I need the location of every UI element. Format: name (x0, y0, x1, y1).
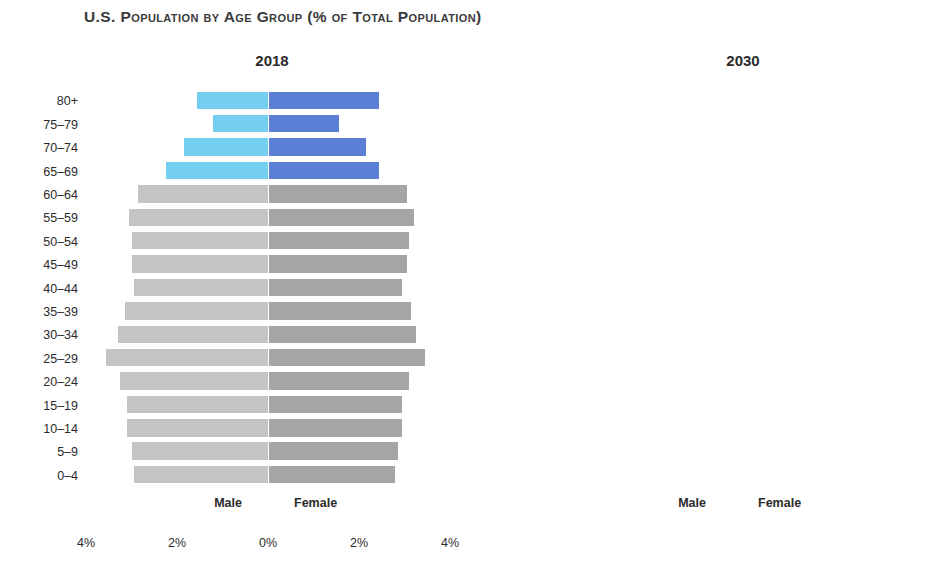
bar-male (132, 232, 269, 250)
bar-female (268, 185, 407, 203)
x-axis-tick: 0% (259, 536, 277, 550)
bar-male (106, 349, 268, 367)
age-group-label: 0–4 (57, 470, 78, 483)
bar-female (268, 279, 402, 297)
bar-male (118, 326, 268, 344)
sex-captions-2030: Male Female (476, 496, 952, 514)
bar-male (213, 115, 268, 133)
age-group-label: 50–54 (43, 236, 78, 249)
age-group-label: 80+ (57, 95, 78, 108)
sex-captions-2018: Male Female (0, 496, 476, 514)
panel-year-label: 2018 (0, 52, 476, 69)
age-group-label: 60–64 (43, 189, 78, 202)
bar-male (127, 419, 268, 437)
age-group-label: 70–74 (43, 142, 78, 155)
bar-male (197, 92, 268, 110)
pyramid-plot-2018: 80+75–7970–7465–6960–6455–5950–5445–4940… (86, 90, 450, 488)
bar-female (268, 466, 395, 484)
female-caption: Female (294, 496, 337, 510)
age-group-label: 20–24 (43, 376, 78, 389)
age-group-label: 65–69 (43, 166, 78, 179)
female-caption: Female (758, 496, 801, 510)
age-group-label: 30–34 (43, 329, 78, 342)
age-group-label: 55–59 (43, 212, 78, 225)
bar-male (166, 162, 268, 180)
age-group-label: 45–49 (43, 259, 78, 272)
page-title: U.S. Population by Age Group (% of Total… (84, 8, 482, 26)
age-group-label: 15–19 (43, 400, 78, 413)
bar-female (268, 372, 409, 390)
bar-female (268, 138, 366, 156)
bar-male (120, 372, 268, 390)
bar-female (268, 419, 402, 437)
bar-female (268, 349, 425, 367)
x-axis-tick: 4% (441, 536, 459, 550)
bar-female (268, 302, 411, 320)
age-group-label: 5–9 (57, 446, 78, 459)
bar-female (268, 162, 379, 180)
age-group-label: 75–79 (43, 119, 78, 132)
bar-male (129, 209, 268, 227)
bar-male (134, 279, 268, 297)
bar-female (268, 396, 402, 414)
bar-male (138, 185, 268, 203)
age-group-label: 40–44 (43, 283, 78, 296)
bar-female (268, 442, 398, 460)
x-axis-2018: 4%2%0%2%4% (0, 536, 476, 556)
bar-male (125, 302, 268, 320)
bar-female (268, 255, 407, 273)
bar-female (268, 326, 416, 344)
zero-axis-line (268, 90, 269, 488)
bar-male (127, 396, 268, 414)
x-axis-tick: 2% (350, 536, 368, 550)
panel-year-label: 2030 (476, 52, 952, 69)
bar-female (268, 115, 339, 133)
age-group-label: 35–39 (43, 306, 78, 319)
x-axis-tick: 4% (77, 536, 95, 550)
bar-female (268, 232, 409, 250)
male-caption: Male (214, 496, 242, 510)
bar-female (268, 92, 379, 110)
age-group-label: 25–29 (43, 353, 78, 366)
x-axis-2030: 4%2%0%2%4% (476, 536, 952, 556)
bar-male (132, 442, 269, 460)
bar-male (134, 466, 268, 484)
bar-male (184, 138, 268, 156)
bar-male (132, 255, 269, 273)
bar-female (268, 209, 414, 227)
male-caption: Male (678, 496, 706, 510)
age-group-label: 10–14 (43, 423, 78, 436)
x-axis-tick: 2% (168, 536, 186, 550)
